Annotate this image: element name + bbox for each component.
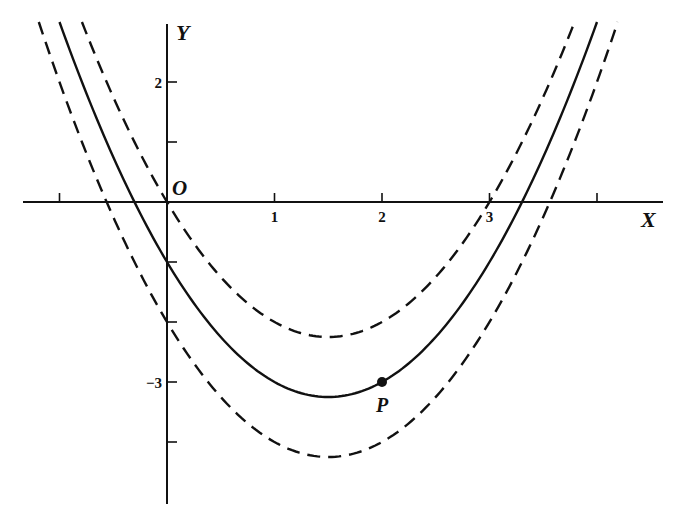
labels: Y X O P <box>172 20 657 416</box>
x-axis-label: X <box>640 207 657 232</box>
plot-canvas: 123 2−3 Y X O P <box>0 0 679 524</box>
point-p-marker <box>377 377 387 387</box>
x-tick-label: 3 <box>486 209 494 225</box>
upper-dashed-parabola <box>82 22 575 337</box>
y-tick-label: 2 <box>155 75 163 91</box>
x-ticks: 123 <box>60 193 598 225</box>
parabola-figure: 123 2−3 Y X O P <box>0 0 679 524</box>
curves <box>39 22 618 457</box>
point-p-label: P <box>375 394 389 416</box>
lower-dashed-parabola <box>39 22 618 457</box>
y-tick-label: −3 <box>146 375 162 391</box>
solid-parabola <box>60 22 598 397</box>
y-axis-label: Y <box>176 20 192 45</box>
y-ticks: 2−3 <box>146 75 177 442</box>
axes: 123 2−3 <box>23 24 663 504</box>
x-tick-label: 1 <box>271 209 279 225</box>
x-tick-label: 2 <box>378 209 386 225</box>
origin-label: O <box>172 176 187 200</box>
